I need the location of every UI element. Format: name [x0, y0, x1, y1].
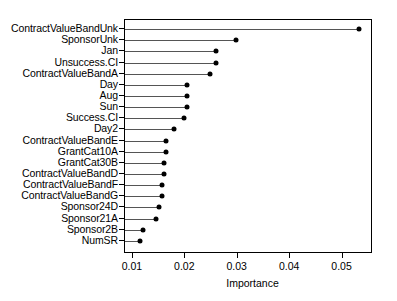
needle-line [125, 74, 210, 75]
y-axis-tick [119, 73, 124, 74]
y-axis-tick-label: Jan [101, 45, 118, 56]
data-point [137, 238, 142, 243]
data-point [357, 27, 362, 32]
y-axis-tick-label: Sun [100, 101, 118, 112]
needle-line [125, 207, 159, 208]
data-point [154, 216, 159, 221]
y-axis-tick-label: ContractValueBandF [23, 179, 118, 190]
x-axis-tick [342, 253, 343, 258]
data-point [172, 127, 177, 132]
data-point [214, 49, 219, 54]
y-axis-tick [119, 162, 124, 163]
data-point [159, 194, 164, 199]
data-point [185, 94, 190, 99]
x-axis-title-label: Importance [226, 277, 279, 289]
x-axis-tick-label: 0.01 [122, 261, 142, 272]
needle-line [125, 141, 166, 142]
y-axis-tick-label: Day [100, 79, 118, 90]
y-axis-tick-label: Success.CI [66, 112, 118, 123]
data-point [140, 227, 145, 232]
needle-line [125, 152, 166, 153]
needle-line [125, 174, 164, 175]
y-axis-tick [119, 28, 124, 29]
y-axis-tick [119, 62, 124, 63]
y-axis-tick [119, 117, 124, 118]
y-axis-tick-label: Day2 [94, 123, 118, 134]
data-point [233, 38, 238, 43]
x-axis-tick-label: 0.04 [279, 261, 299, 272]
y-axis-tick-label: Sponsor2B [67, 223, 118, 234]
needle-line [125, 63, 216, 64]
data-point [157, 205, 162, 210]
x-axis-tick [184, 253, 185, 258]
y-axis-tick [119, 206, 124, 207]
y-axis-tick-label: NumSR [82, 235, 118, 246]
y-axis-tick [119, 151, 124, 152]
data-point [159, 183, 164, 188]
y-axis-tick-label: Sponsor21A [61, 212, 118, 223]
needle-line [125, 40, 236, 41]
needle-line [125, 196, 162, 197]
y-axis-tick-label: ContractValueBandE [23, 134, 118, 145]
data-point [214, 60, 219, 65]
plot-panel [124, 19, 372, 253]
y-axis-tick-label: ContractValueBandG [21, 190, 118, 201]
y-axis-tick [119, 84, 124, 85]
x-axis-tick-label: 0.05 [331, 261, 351, 272]
y-axis-tick [119, 50, 124, 51]
needle-line [125, 96, 187, 97]
y-axis-tick-label: ContractValueBandD [22, 168, 118, 179]
needle-line [125, 118, 184, 119]
needle-line [125, 85, 187, 86]
needle-line [125, 185, 162, 186]
plot-area [125, 20, 371, 252]
y-axis-tick [119, 195, 124, 196]
data-point [181, 116, 186, 121]
y-axis-tick-label: Sponsor24D [61, 201, 118, 212]
y-axis-tick-label: ContractValueBandA [23, 67, 118, 78]
y-axis-tick [119, 140, 124, 141]
y-axis-tick-label: Aug [100, 90, 118, 101]
y-axis-tick-label: Unsuccess.CI [54, 56, 118, 67]
y-axis-tick [119, 240, 124, 241]
x-axis-tick [289, 253, 290, 258]
importance-dot-chart: ContractValueBandUnkSponsorUnkJanUnsucce… [0, 0, 397, 301]
data-point [161, 172, 166, 177]
y-axis-tick-label: GrantCat30B [58, 157, 118, 168]
needle-line [125, 107, 187, 108]
x-axis-tick-label: 0.03 [227, 261, 247, 272]
y-axis-tick [119, 106, 124, 107]
data-point [208, 71, 213, 76]
y-axis-tick [119, 173, 124, 174]
needle-line [125, 51, 216, 52]
data-point [185, 105, 190, 110]
data-point [185, 82, 190, 87]
y-axis-tick-label: GrantCat10A [58, 145, 118, 156]
x-axis-title: Importance [0, 277, 397, 289]
y-axis-tick [119, 128, 124, 129]
y-axis-tick [119, 184, 124, 185]
y-axis-labels: ContractValueBandUnkSponsorUnkJanUnsucce… [0, 19, 118, 253]
data-point [164, 138, 169, 143]
needle-line [125, 219, 156, 220]
needle-line [125, 163, 164, 164]
y-axis-tick [119, 39, 124, 40]
needle-line [125, 129, 174, 130]
y-axis-tick-label: ContractValueBandUnk [11, 23, 118, 34]
needle-line [125, 29, 359, 30]
y-axis-tick [119, 229, 124, 230]
data-point [164, 149, 169, 154]
y-axis-tick [119, 218, 124, 219]
x-axis-tick [237, 253, 238, 258]
data-point [161, 160, 166, 165]
x-axis-tick-label: 0.02 [174, 261, 194, 272]
x-axis-tick [132, 253, 133, 258]
y-axis-tick-label: SponsorUnk [61, 34, 118, 45]
y-axis-tick [119, 95, 124, 96]
